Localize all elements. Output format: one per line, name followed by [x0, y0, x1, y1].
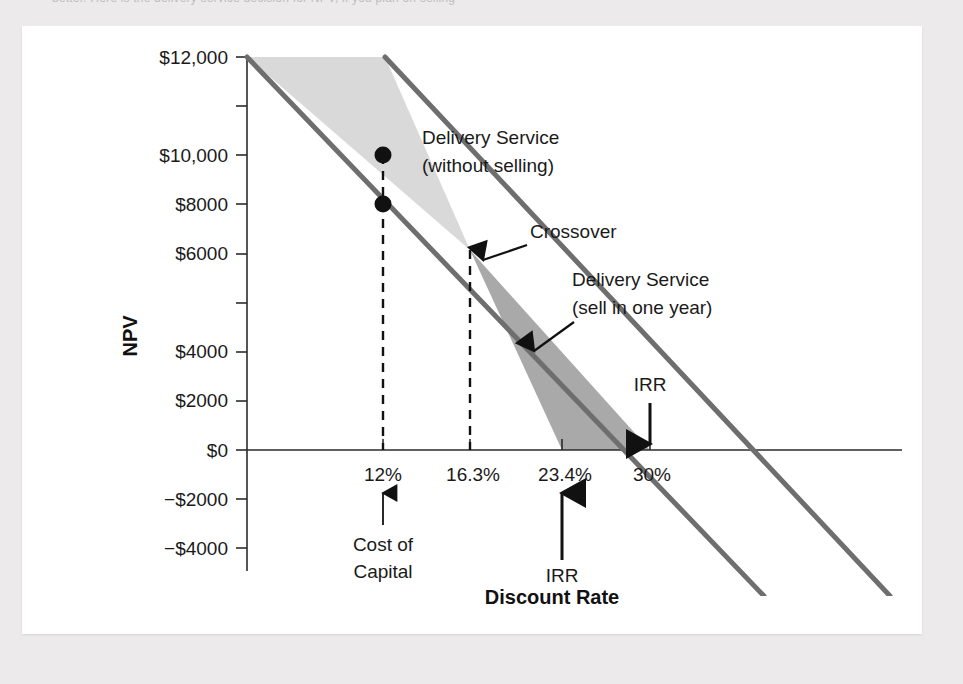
cost-of-capital-annotation: Cost of Capital	[353, 493, 414, 582]
y-tick-label: $10,000	[159, 145, 228, 166]
caption-text: better. Here is the delivery service dec…	[52, 0, 455, 5]
y-tick-label: $2000	[175, 390, 228, 411]
npv-profile-chart: $12,000 $10,000 $8000 $6000 $4000 $2000 …	[22, 26, 922, 634]
x-tick-label: 12%	[364, 464, 402, 485]
y-tick-label: $6000	[175, 243, 228, 264]
y-tick-label: $0	[207, 440, 228, 461]
series-label-without-selling: Delivery Service (without selling)	[422, 127, 559, 176]
x-axis-tick-labels: 12% 16.3% 23.4% 30%	[364, 464, 671, 485]
irr-sell-in-one-year-annotation: IRR	[634, 374, 667, 444]
series-label-sell-in-one-year: Delivery Service (sell in one year)	[534, 269, 712, 351]
series-label-line1: Delivery Service	[422, 127, 559, 148]
marker-sell-in-one-year	[375, 196, 392, 213]
y-axis-title: NPV	[119, 315, 141, 357]
y-tick-label: $12,000	[159, 47, 228, 68]
y-tick-label: $8000	[175, 194, 228, 215]
x-tick-label: 30%	[633, 464, 671, 485]
cost-of-capital-label-line2: Capital	[353, 561, 412, 582]
irr-label: IRR	[546, 565, 579, 586]
x-axis-title: Discount Rate	[485, 586, 619, 608]
irr-label: IRR	[634, 374, 667, 395]
series-label-line2: (sell in one year)	[572, 297, 712, 318]
y-tick-label: −$2000	[164, 489, 228, 510]
series-label-line1: Delivery Service	[572, 269, 709, 290]
axes	[236, 57, 902, 571]
series-label-line2: (without selling)	[422, 155, 554, 176]
figure-card: $12,000 $10,000 $8000 $6000 $4000 $2000 …	[22, 26, 922, 634]
x-tick-label: 23.4%	[538, 464, 592, 485]
upper-shaded-region	[247, 57, 470, 250]
marker-without-selling	[375, 147, 392, 164]
crossover-arrow	[483, 245, 527, 260]
x-tick-label: 16.3%	[446, 464, 500, 485]
crossover-label: Crossover	[530, 221, 617, 242]
y-axis-ticks	[236, 57, 247, 548]
irr-without-selling-annotation: IRR	[546, 493, 579, 586]
shaded-regions	[247, 57, 650, 450]
y-tick-label: −$4000	[164, 538, 228, 559]
y-tick-label: $4000	[175, 341, 228, 362]
crossover-annotation: Crossover	[483, 221, 617, 260]
cost-of-capital-label-line1: Cost of	[353, 534, 414, 555]
caption-strip: better. Here is the delivery service dec…	[0, 0, 963, 22]
y-axis-tick-labels: $12,000 $10,000 $8000 $6000 $4000 $2000 …	[159, 47, 228, 559]
